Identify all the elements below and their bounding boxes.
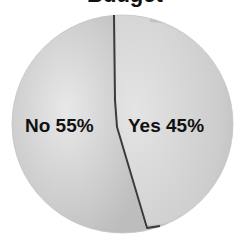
- slice-label-no: No 55%: [25, 116, 94, 136]
- slice-label-yes: Yes 45%: [128, 116, 204, 136]
